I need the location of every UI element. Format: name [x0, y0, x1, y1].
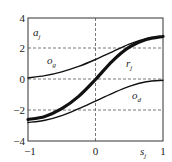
- curve-label-r-j: rj: [126, 57, 132, 72]
- y-tick-4: 4: [20, 12, 26, 24]
- x-axis-label: sj: [140, 145, 146, 160]
- y-tick-neg2: −2: [13, 104, 25, 116]
- chart: 4 2 0 −2 −4 −1 0 1 aj sj og rj od: [0, 0, 172, 162]
- curve-label-o-g: og: [47, 54, 57, 69]
- y-tick-0: 0: [20, 73, 26, 85]
- x-tick-0: 0: [93, 145, 99, 157]
- x-tick-neg1: −1: [24, 145, 36, 157]
- y-tick-labels: 4 2 0 −2 −4: [13, 12, 25, 147]
- x-tick-1: 1: [160, 145, 166, 157]
- y-tick-2: 2: [20, 42, 26, 54]
- y-axis-label: aj: [33, 26, 41, 41]
- curve-label-o-d: od: [132, 89, 142, 104]
